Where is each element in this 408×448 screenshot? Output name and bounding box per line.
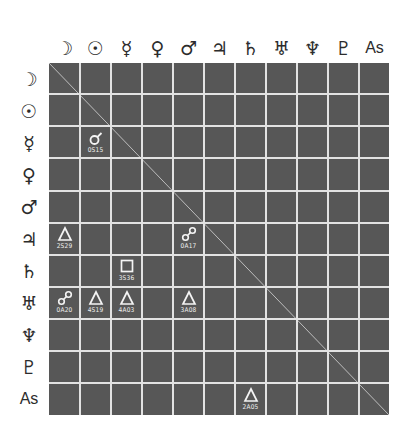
grid-line-v [327, 63, 329, 415]
grid-line-h [49, 190, 389, 192]
col-header-pluto: ♇ [328, 35, 359, 61]
grid-line-v [296, 63, 298, 415]
trine-icon [57, 226, 73, 242]
aspect-cell-jupiter-mars[interactable]: 0A17 [173, 222, 204, 254]
row-header-uranus: ♅ [14, 287, 44, 319]
orb-label: 2S29 [57, 243, 73, 250]
grid-line-h [49, 222, 389, 224]
grid-line-h [49, 254, 389, 256]
row-header-pluto: ♇ [14, 351, 44, 383]
aspect-cell-uranus-mars[interactable]: 3A08 [173, 286, 204, 318]
col-header-saturn: ♄ [235, 35, 266, 61]
col-header-jupiter: ♃ [204, 35, 235, 61]
aspect-cell-uranus-sun[interactable]: 4S19 [80, 286, 111, 318]
grid-line-h [49, 93, 389, 95]
col-header-venus: ♀ [142, 35, 173, 61]
trine-icon [88, 290, 104, 306]
col-header-mercury: ☿ [111, 35, 142, 61]
orb-label: 3S36 [119, 275, 135, 282]
grid-line-h [49, 318, 389, 320]
orb-label: 4S19 [88, 307, 104, 314]
grid-line-v [234, 63, 236, 415]
orb-label: 0S15 [88, 147, 104, 154]
aspect-cell-uranus-moon[interactable]: 0A20 [49, 286, 80, 318]
conjunction-icon [88, 130, 104, 146]
orb-label: 0A17 [181, 243, 197, 250]
aspect-cell-mercury-sun[interactable]: 0S15 [80, 126, 111, 158]
aspect-cell-uranus-mercury[interactable]: 4A03 [111, 286, 142, 318]
grid-line-v [141, 63, 143, 415]
col-header-ascendant: As [359, 35, 390, 61]
col-header-sun: ☉ [80, 35, 111, 61]
col-header-moon: ☽ [49, 35, 80, 61]
col-header-neptune: ♆ [297, 35, 328, 61]
row-header-neptune: ♆ [14, 319, 44, 351]
opposition-icon [57, 290, 73, 306]
col-header-mars: ♂ [173, 35, 204, 61]
aspect-cell-ascendant-saturn[interactable]: 2A05 [235, 383, 266, 415]
aspect-cell-jupiter-moon[interactable]: 2S29 [49, 222, 80, 254]
row-header-moon: ☽ [14, 63, 44, 95]
grid-line-v [358, 63, 360, 415]
orb-label: 2A05 [243, 404, 259, 411]
row-header-venus: ♀ [14, 159, 44, 191]
trine-icon [181, 290, 197, 306]
grid-line-v [265, 63, 267, 415]
trine-icon [243, 387, 259, 403]
orb-label: 3A08 [181, 307, 197, 314]
row-header-jupiter: ♃ [14, 223, 44, 255]
grid-line-h [49, 382, 389, 384]
row-header-mars: ♂ [14, 191, 44, 223]
orb-label: 4A03 [119, 307, 135, 314]
col-header-uranus: ♅ [266, 35, 297, 61]
row-header-ascendant: As [14, 383, 44, 415]
opposition-icon [181, 226, 197, 242]
row-header-sun: ☉ [14, 95, 44, 127]
orb-label: 0A20 [57, 307, 73, 314]
square-icon [119, 258, 135, 274]
row-header-saturn: ♄ [14, 255, 44, 287]
row-header-mercury: ☿ [14, 127, 44, 159]
grid-line-h [49, 350, 389, 352]
trine-icon [119, 290, 135, 306]
aspect-cell-saturn-mercury[interactable]: 3S36 [111, 254, 142, 286]
aspect-grid: 0S15 2S29 0A17 3S36 0A20 [49, 63, 389, 415]
diagonal-line [49, 63, 389, 415]
grid-line-v [110, 63, 112, 415]
